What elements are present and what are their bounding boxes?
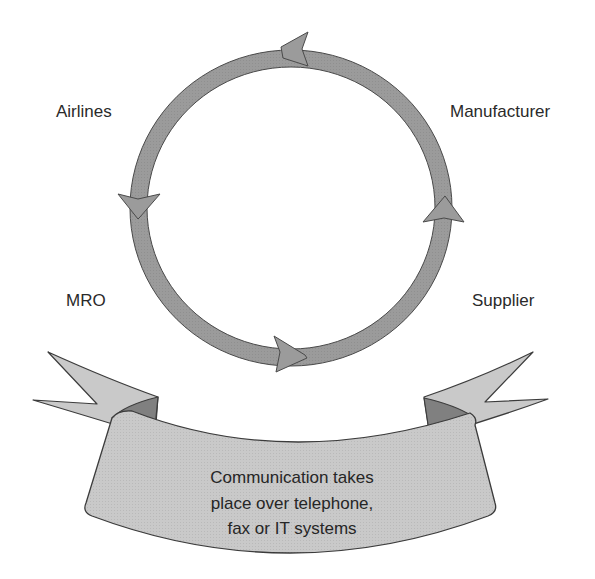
- node-label-manufacturer: Manufacturer: [450, 102, 550, 121]
- communication-cycle-diagram: Airlines Manufacturer MRO Supplier Commu…: [0, 0, 595, 579]
- cycle-ring: [118, 32, 464, 372]
- banner-text-line-1: Communication takes: [210, 468, 373, 487]
- banner-text-line-3: fax or IT systems: [227, 519, 356, 538]
- node-label-mro: MRO: [66, 291, 106, 310]
- banner-text-line-2: place over telephone,: [211, 494, 374, 513]
- banner: Communication takes place over telephone…: [33, 352, 548, 553]
- arrowhead-right-icon: [423, 196, 464, 222]
- node-label-airlines: Airlines: [56, 102, 112, 121]
- node-label-supplier: Supplier: [472, 291, 535, 310]
